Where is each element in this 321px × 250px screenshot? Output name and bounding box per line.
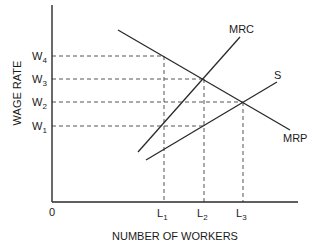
y-axis-title: WAGE RATE bbox=[11, 61, 23, 126]
w3-label: W3 bbox=[32, 73, 47, 88]
mrc-label: MRC bbox=[229, 23, 254, 35]
mrp-label: MRP bbox=[283, 132, 307, 144]
supply-label: S bbox=[274, 69, 281, 81]
axes bbox=[52, 5, 298, 202]
x-axis-title: NUMBER OF WORKERS bbox=[112, 230, 238, 242]
l1-label: L1 bbox=[157, 207, 168, 222]
labor-market-diagram: MRC S MRP W4 W3 W2 W1 L1 L2 L3 0 NUMBER … bbox=[0, 0, 321, 250]
w2-label: W2 bbox=[32, 96, 47, 111]
guide-lines bbox=[52, 56, 243, 202]
wage-tick-labels: W4 W3 W2 W1 bbox=[32, 50, 47, 135]
l2-label: L2 bbox=[197, 207, 208, 222]
l3-label: L3 bbox=[236, 207, 247, 222]
w1-label: W1 bbox=[32, 120, 47, 135]
labor-tick-labels: L1 L2 L3 bbox=[157, 207, 247, 222]
w4-label: W4 bbox=[32, 50, 47, 65]
origin-label: 0 bbox=[49, 206, 55, 218]
